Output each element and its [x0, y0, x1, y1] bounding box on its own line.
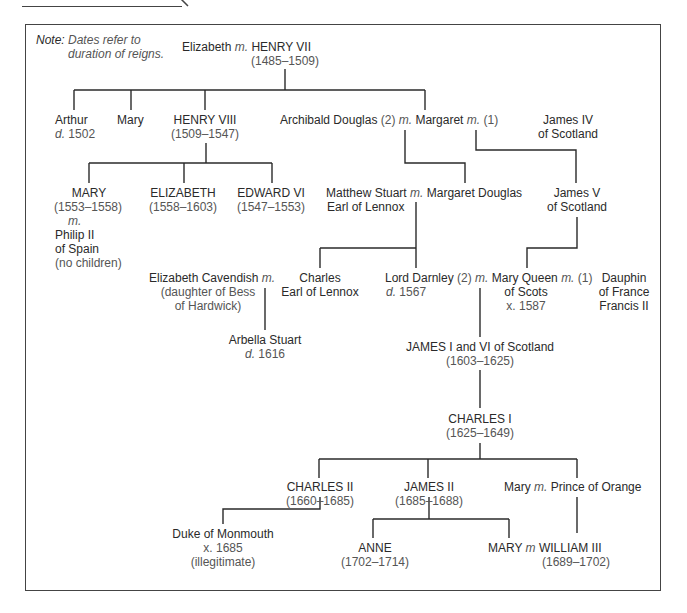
mary1-marriage-marker: m.	[68, 214, 81, 228]
note-label: Note:	[36, 33, 65, 47]
charles2-dates: (1660–1685)	[286, 494, 354, 508]
person-james-v: James Vof Scotland	[547, 186, 607, 214]
mary1-no-children: (no children)	[55, 256, 122, 270]
mary-qos-executed: x. 1587	[506, 299, 545, 313]
person-charles-lennox: CharlesEarl of Lennox	[281, 271, 358, 299]
person-prince-of-orange: Prince of Orange	[551, 480, 642, 494]
james1-dates: (1603–1625)	[446, 354, 514, 368]
henry7-dates: (1485–1509)	[251, 54, 319, 68]
person-elizabeth-cavendish: Elizabeth Cavendish m.	[149, 271, 275, 285]
person-mary-tudor: Mary	[117, 113, 144, 127]
person-mary-ii: MARY	[488, 541, 522, 555]
node-mary2-m-william3: MARY m WILLIAM III	[488, 541, 602, 555]
person-philip-ii: Philip IIof Spain	[55, 228, 99, 256]
william3-dates: (1689–1702)	[542, 555, 610, 569]
matthew-stuart-title: Earl of Lennox	[327, 200, 404, 214]
person-dauphin-francis-ii: Dauphinof FranceFrancis II	[599, 271, 650, 313]
person-elizabeth-i: ELIZABETH	[150, 186, 215, 200]
note-line1: Dates refer to	[68, 33, 141, 47]
person-james-ii: JAMES II	[404, 480, 454, 494]
person-henry-viii: HENRY VIII	[174, 113, 237, 127]
person-charles-ii: CHARLES II	[287, 480, 354, 494]
marriage-marker: m.	[235, 40, 248, 54]
anne-dates: (1702–1714)	[341, 555, 409, 569]
tree-connectors	[0, 0, 687, 613]
arbella-death: d. 1616	[245, 347, 285, 361]
node-darnley-m-mary-qos: Lord Darnley (2) m. Mary Queen m. (1)	[385, 271, 592, 285]
person-mary-i: MARY	[72, 186, 106, 200]
node-mary-m-prince-of-orange: Mary m. Prince of Orange	[504, 480, 641, 494]
person-duke-of-monmouth: Duke of Monmouth	[172, 527, 273, 541]
monmouth-note: (illegitimate)	[191, 555, 256, 569]
charles1-dates: (1625–1649)	[446, 426, 514, 440]
note-text: Note: Dates refer to duration of reigns.	[36, 33, 164, 61]
person-lord-darnley: Lord Darnley	[385, 271, 454, 285]
elizabeth-cavendish-note: (daughter of Bessof Hardwick)	[161, 285, 256, 313]
person-james-i: JAMES I and VI of Scotland	[406, 340, 554, 354]
person-edward-vi: EDWARD VI	[237, 186, 305, 200]
person-mary-princess: Mary	[504, 480, 531, 494]
person-arbella-stuart: Arbella Stuart	[229, 333, 302, 347]
darnley-death: d. 1567	[386, 285, 426, 299]
person-elizabeth-of-york: Elizabeth	[182, 40, 231, 54]
node-archibald-m-margaret: Archibald Douglas (2) m. Margaret m. (1)	[280, 113, 498, 127]
person-henry-vii: HENRY VII	[251, 40, 311, 54]
james2-dates: (1685–1688)	[395, 494, 463, 508]
person-margaret-douglas: Margaret Douglas	[427, 186, 522, 200]
person-archibald-douglas: Archibald Douglas	[280, 113, 377, 127]
monmouth-executed: x. 1685	[203, 541, 242, 555]
node-elizabeth-m-henry7: Elizabeth m. HENRY VII	[182, 40, 311, 54]
person-anne: ANNE	[358, 541, 391, 555]
note-line2: duration of reigns.	[36, 47, 164, 61]
person-arthur: Arthur	[55, 113, 88, 127]
person-charles-i: CHARLES I	[448, 412, 511, 426]
henry8-dates: (1509–1547)	[171, 127, 239, 141]
mary1-dates: (1553–1558)	[54, 200, 122, 214]
node-matthew-m-margaret-douglas: Matthew Stuart m. Margaret Douglas	[326, 186, 522, 200]
person-margaret-tudor: Margaret	[415, 113, 463, 127]
edward6-dates: (1547–1553)	[237, 200, 305, 214]
mary-qos-line2: of Scots	[504, 285, 547, 299]
person-james-iv: James IVof Scotland	[538, 113, 598, 141]
person-matthew-stuart: Matthew Stuart	[326, 186, 407, 200]
arthur-death: d. 1502	[55, 127, 95, 141]
elizabeth1-dates: (1558–1603)	[149, 200, 217, 214]
person-mary-queen-of-scots: Mary Queen	[492, 271, 558, 285]
person-william-iii: WILLIAM III	[539, 541, 602, 555]
